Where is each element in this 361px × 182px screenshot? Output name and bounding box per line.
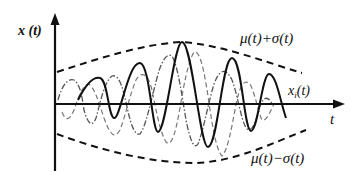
stochastic-process-diagram: x (t) t μ(t)+σ(t) μ(t)−σ(t) xi(t) <box>0 0 361 182</box>
sample-function-label: xi(t) <box>287 83 310 100</box>
dashdot-realization-curve <box>58 55 272 146</box>
diagram-canvas: x (t) t μ(t)+σ(t) μ(t)−σ(t) xi(t) <box>0 0 361 182</box>
x-axis-label: t <box>330 111 335 127</box>
x-axis-arrowhead-icon <box>333 100 345 109</box>
upper-envelope-label: μ(t)+σ(t) <box>239 30 293 47</box>
sample-function-label-suffix: (t) <box>297 83 311 99</box>
lower-envelope-label: μ(t)−σ(t) <box>250 150 304 167</box>
y-axis-arrowhead-icon <box>51 13 60 25</box>
y-axis-label: x (t) <box>17 23 42 39</box>
